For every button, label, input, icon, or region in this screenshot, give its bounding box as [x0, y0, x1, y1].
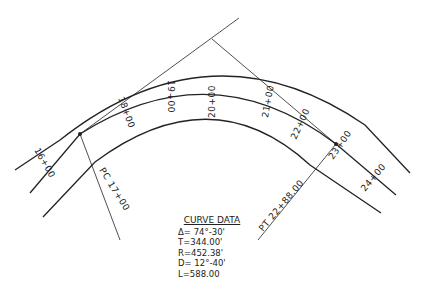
curve-radius: R=452.38'	[172, 248, 252, 259]
station-22: 22+00	[289, 107, 312, 141]
curve-data-title: CURVE DATA	[172, 215, 252, 226]
curve-degree: D= 12°-40'	[172, 258, 252, 269]
station-19: 19+00	[166, 80, 176, 113]
curve-data-block: CURVE DATA Δ= 74°-30' T=344.00' R=452.38…	[172, 215, 252, 279]
curve-length: L=588.00	[172, 269, 252, 280]
station-20: 20+00	[207, 85, 217, 118]
station-21: 21+00	[260, 84, 276, 118]
pc-point	[78, 132, 82, 136]
inner-edge-line	[43, 119, 381, 217]
curve-tangent: T=344.00'	[172, 237, 252, 248]
pc-label: PC 17+00	[97, 166, 131, 213]
curve-delta: Δ= 74°-30'	[172, 227, 252, 238]
pt-label: PT 22+88.00	[257, 178, 306, 233]
